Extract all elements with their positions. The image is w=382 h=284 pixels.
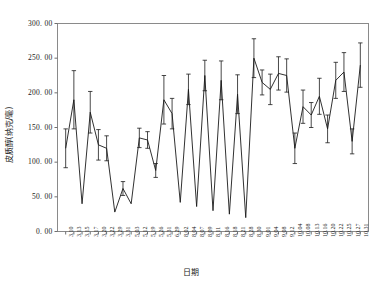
x-axis-tick-label: 10.04 xyxy=(297,223,303,237)
x-axis-tick-label: 5.26 xyxy=(158,226,164,237)
x-axis-tick-label: 3.15 xyxy=(84,226,90,237)
x-axis-tick-label: 10.20 xyxy=(330,223,336,237)
chart-container: 皮质醇(纳克/毫) 0. 0050. 00100. 00150. 00200. … xyxy=(0,0,382,284)
x-axis-title: 日期 xyxy=(0,266,382,277)
x-axis-tick-label: 3.13 xyxy=(76,226,82,237)
x-axis-tick-label: 9.04 xyxy=(273,226,279,237)
x-axis-tick-label: 9.08 xyxy=(281,226,287,237)
y-axis-title-text: 皮质醇(纳克/毫) xyxy=(3,107,14,164)
x-axis-tick-label: 10.27 xyxy=(355,223,361,237)
data-series-line xyxy=(66,58,361,217)
x-axis-tick-label: 8.18 xyxy=(232,226,238,237)
x-axis-tick-label: 10.08 xyxy=(305,223,311,237)
x-axis-tick-label: 8.16 xyxy=(224,226,230,237)
x-axis-tick-label: 6.29 xyxy=(174,226,180,237)
y-axis-title: 皮质醇(纳克/毫) xyxy=(0,60,16,210)
y-axis-tick-label: 250. 00 xyxy=(17,53,53,62)
x-axis-tick-label: 8.28 xyxy=(248,226,254,237)
x-axis-tick-label: 8.21 xyxy=(240,226,246,237)
x-axis-tick-label: 5.19 xyxy=(150,226,156,237)
y-axis-tick-label: 50. 00 xyxy=(17,192,53,201)
y-axis-tick-label: 100. 00 xyxy=(17,157,53,166)
axis-ticks xyxy=(55,24,361,235)
x-axis-tick-label: 8.11 xyxy=(215,226,221,236)
x-axis-tick-label: 10.16 xyxy=(322,223,328,237)
y-axis-tick-label: 200. 00 xyxy=(17,88,53,97)
x-axis-tick-label: 5.31 xyxy=(166,226,172,237)
x-axis-tick-label: 3.22 xyxy=(109,226,115,237)
x-axis-tick-label: 8.07 xyxy=(199,226,205,237)
x-axis-tick-label: 9.01 xyxy=(265,226,271,237)
y-axis-tick-label: 0. 00 xyxy=(17,227,53,236)
x-axis-tick-label: 10.25 xyxy=(346,223,352,237)
x-axis-tick-label: 3.20 xyxy=(101,226,107,237)
x-axis-tick-label: 8.09 xyxy=(207,226,213,237)
x-axis-tick-label: 3.10 xyxy=(68,226,74,237)
x-axis-tick-label: 8.04 xyxy=(191,226,197,237)
error-bars xyxy=(63,39,362,196)
x-axis-tick-label: 5.03 xyxy=(134,226,140,237)
x-axis-tick-label: 5.12 xyxy=(142,226,148,237)
x-axis-tick-label: 3.29 xyxy=(117,226,123,237)
x-axis-tick-label: 3.17 xyxy=(93,226,99,237)
x-axis-tick-label: 10.13 xyxy=(314,223,320,237)
x-axis-tick-label: 8.02 xyxy=(183,226,189,237)
x-axis-tick-label: 9.12 xyxy=(289,226,295,237)
x-axis-tick-label: 10.31 xyxy=(363,223,369,237)
y-axis-tick-label: 150. 00 xyxy=(17,123,53,132)
x-axis-tick-label: 8.30 xyxy=(256,226,262,237)
plot-area xyxy=(0,0,382,284)
x-axis-tick-label: 10.22 xyxy=(338,223,344,237)
axes xyxy=(58,24,369,232)
y-axis-tick-label: 300. 00 xyxy=(17,19,53,28)
x-axis-tick-label: 3.31 xyxy=(125,226,131,237)
